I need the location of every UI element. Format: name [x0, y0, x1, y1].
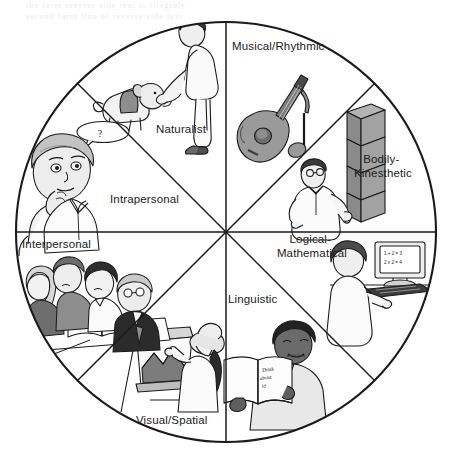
sector-label-musical-rhythmic: Musical/Rhythmic: [232, 40, 325, 52]
logical-line-1: Logical-: [290, 233, 331, 245]
bodily-line-2: Kinesthetic: [354, 167, 412, 179]
illustration-musical: [237, 75, 309, 162]
wheel-spokes: [16, 22, 436, 442]
multiple-intelligences-wheel: Musical/Rhythmic Bodily- Kinesthetic Log…: [0, 0, 451, 463]
computer-screen-equation-1: 1 + 2 = 3: [384, 251, 403, 256]
bodily-line-1: Bodily-: [363, 153, 399, 165]
wheel-geometry: [16, 22, 436, 442]
sector-label-visual-spatial: Visual/Spatial: [136, 414, 208, 426]
sector-label-linguistic: Linguistic: [228, 293, 278, 305]
logical-line-2: Mathematical: [277, 247, 347, 259]
sector-label-interpersonal: Interpersonal: [22, 238, 91, 250]
thought-bubble-question-mark: ?: [98, 128, 103, 139]
sector-label-intrapersonal: Intrapersonal: [110, 193, 179, 205]
computer-screen-equation-2: 2 x 2 = 4: [384, 260, 402, 265]
illustration-linguistic: [224, 321, 327, 430]
sector-label-naturalist: Naturalist: [156, 123, 207, 135]
